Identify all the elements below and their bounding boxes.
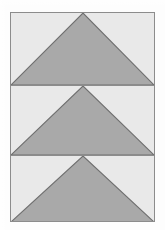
figure-root: Three stacked panels each containing an … (0, 0, 165, 230)
bottom-panel: Panel 3 (11, 156, 154, 222)
top-panel-triangle-canvas (11, 13, 154, 86)
middle-panel: Panel 2 (11, 86, 154, 156)
figure-plate: Panel 1 Panel 2 Panel 3 (10, 12, 155, 222)
triangle-shape (11, 86, 154, 155)
top-panel: Panel 1 (11, 13, 154, 86)
triangle-shape (11, 156, 154, 222)
bottom-panel-triangle-canvas (11, 156, 154, 222)
triangle-shape (11, 13, 154, 85)
middle-panel-triangle-canvas (11, 86, 154, 156)
